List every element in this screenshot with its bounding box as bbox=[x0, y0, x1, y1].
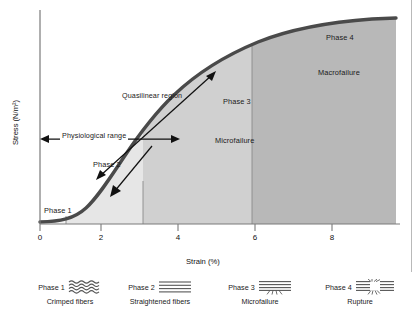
x-tick-label-2: 2 bbox=[94, 233, 108, 242]
phase-regions bbox=[40, 10, 396, 224]
y-axis-title: Stress (N/m²) bbox=[11, 90, 20, 156]
x-tick-label-4: 4 bbox=[171, 233, 185, 242]
legend-phase-1-desc: Crimped fibers bbox=[22, 297, 118, 306]
phase-2-region-label: Phase 2 bbox=[93, 160, 121, 169]
legend-item-phase-4: Phase 4 bbox=[310, 278, 410, 306]
stress-strain-figure: Stress (N/m²) Strain (%) 0 2 4 6 8 Physi… bbox=[0, 0, 418, 334]
x-axis-ticks bbox=[40, 224, 332, 231]
legend-phase-4-desc: Rupture bbox=[310, 297, 410, 306]
phase-1-region-label: Phase 1 bbox=[44, 206, 72, 215]
x-tick-label-6: 6 bbox=[248, 233, 262, 242]
x-tick-label-8: 8 bbox=[325, 233, 339, 242]
x-axis-title: Strain (%) bbox=[186, 257, 220, 266]
straight-fibers-icon bbox=[158, 279, 192, 295]
legend-phase-2-desc: Straightened fibers bbox=[108, 297, 212, 306]
phase-3-region-desc: Microfailure bbox=[215, 136, 254, 145]
x-tick-label-0: 0 bbox=[33, 233, 47, 242]
phase-4-region-label: Phase 4 bbox=[326, 33, 354, 42]
phase-2-band bbox=[66, 10, 143, 224]
legend-phase-1-name: Phase 1 bbox=[38, 283, 64, 292]
physiological-range-label: Physiological range bbox=[60, 131, 128, 140]
quasilinear-region-label: Quasilinear region bbox=[122, 91, 182, 100]
legend-phase-4-name: Phase 4 bbox=[325, 283, 351, 292]
rupture-fibers-icon bbox=[355, 279, 395, 295]
legend-item-phase-2: Phase 2 Straightened fibers bbox=[108, 278, 212, 306]
phase-1-band bbox=[40, 10, 66, 224]
phase-4-region-desc: Macrofailure bbox=[318, 68, 360, 77]
legend-phase-2-name: Phase 2 bbox=[128, 283, 154, 292]
figure-right-border bbox=[411, 0, 412, 272]
phase-3-band bbox=[143, 10, 252, 224]
wavy-fibers-icon bbox=[68, 279, 102, 295]
legend-item-phase-1: Phase 1 Crimped fibers bbox=[22, 278, 118, 306]
legend-phase-3-name: Phase 3 bbox=[228, 283, 254, 292]
phase-4-band bbox=[252, 10, 396, 224]
legend-phase-3-desc: Microfailure bbox=[212, 297, 308, 306]
microfailure-fibers-icon bbox=[258, 279, 292, 295]
legend-item-phase-3: Phase 3 Microfailure bbox=[212, 278, 308, 306]
phase-3-region-label: Phase 3 bbox=[223, 97, 251, 106]
